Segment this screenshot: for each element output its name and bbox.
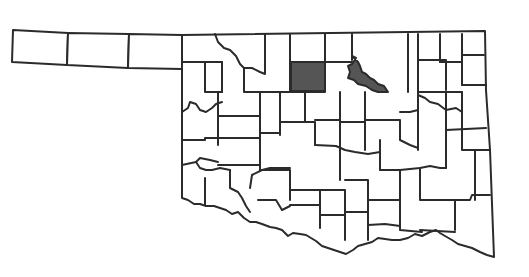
oklahoma-county-map [0,0,529,277]
state-outline [182,31,494,257]
panhandle [12,30,182,69]
county-beaver [128,34,182,69]
county-cimarron [12,30,68,65]
county-texas [67,33,129,68]
county-garfield-highlighted [291,62,325,91]
